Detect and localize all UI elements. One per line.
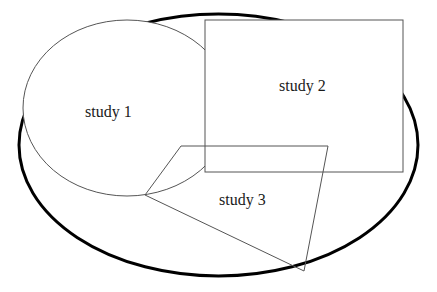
overlap-diagram: study 1 study 2 study 3 (0, 0, 437, 292)
study-3-label: study 3 (219, 191, 266, 209)
diagram-canvas: study 1 study 2 study 3 (0, 0, 437, 292)
study-1-label: study 1 (85, 103, 132, 121)
study-2-rectangle (205, 20, 403, 172)
study-2-label: study 2 (279, 77, 326, 95)
